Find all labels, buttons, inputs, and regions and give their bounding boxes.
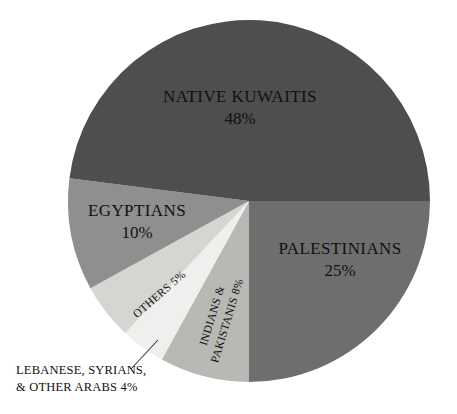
- slice-percent-palestinians: 25%: [324, 261, 355, 280]
- slice-label-palestinians: PALESTINIANS: [278, 239, 401, 258]
- caption-lebanese-syrians-line2: & OTHER ARABS 4%: [16, 380, 138, 394]
- slice-percent-egyptians: 10%: [121, 223, 152, 242]
- slice-label-native-kuwaitis: NATIVE KUWAITIS: [163, 87, 317, 106]
- caption-lebanese-syrians-line1: LEBANESE, SYRIANS,: [16, 363, 146, 377]
- pie-chart-svg: NATIVE KUWAITIS 48% PALESTINIANS 25% EGY…: [0, 0, 457, 414]
- slice-percent-native-kuwaitis: 48%: [224, 109, 255, 128]
- pie-chart-figure: NATIVE KUWAITIS 48% PALESTINIANS 25% EGY…: [0, 0, 457, 414]
- slice-label-egyptians: EGYPTIANS: [88, 201, 186, 220]
